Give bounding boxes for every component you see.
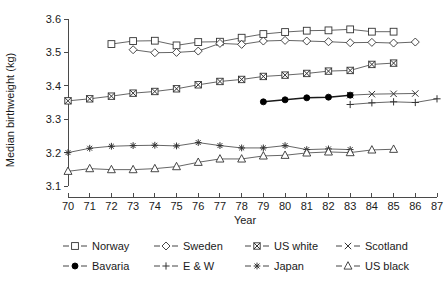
- data-point-open-square: [72, 243, 79, 250]
- y-tick-label: 3.2: [46, 147, 61, 159]
- y-tick-label: 3.6: [46, 13, 61, 25]
- x-tick-label: 84: [366, 200, 378, 212]
- x-tick-label: 80: [279, 200, 291, 212]
- data-point-asterisk: [108, 143, 115, 150]
- data-point-open-square: [151, 37, 158, 44]
- data-point-crossed-square: [195, 82, 201, 88]
- legend-label: E & W: [183, 260, 215, 272]
- data-point-crossed-square: [304, 70, 310, 76]
- x-tick-label: 77: [214, 200, 226, 212]
- y-tick-label: 3.1: [46, 180, 61, 192]
- data-point-crossed-square: [108, 93, 114, 99]
- data-point-open-square: [325, 27, 332, 34]
- data-point-crossed-square: [217, 78, 223, 84]
- x-tick-label: 87: [431, 200, 443, 212]
- data-point-crossed-square: [325, 68, 331, 74]
- data-point-asterisk: [195, 139, 202, 146]
- x-tick-label: 83: [344, 200, 356, 212]
- data-point-filled-circle: [72, 263, 78, 269]
- data-point-open-square: [390, 28, 397, 35]
- data-point-filled-circle: [347, 92, 353, 98]
- x-tick-label: 72: [105, 200, 117, 212]
- x-tick-label: 71: [84, 200, 96, 212]
- data-point-crossed-square: [65, 98, 71, 104]
- data-point-asterisk: [217, 142, 224, 149]
- data-point-crossed-square: [369, 61, 375, 67]
- data-point-crossed-square: [347, 67, 353, 73]
- x-tick-label: 81: [301, 200, 313, 212]
- data-point-open-square: [368, 28, 375, 35]
- data-point-crossed-square: [173, 86, 179, 92]
- data-point-asterisk: [86, 145, 93, 152]
- x-axis-title: Year: [234, 214, 257, 226]
- data-point-asterisk: [254, 263, 261, 270]
- legend-label: US white: [274, 240, 318, 252]
- data-point-filled-circle: [282, 97, 288, 103]
- data-point-filled-circle: [325, 94, 331, 100]
- data-point-asterisk: [65, 149, 72, 156]
- data-point-asterisk: [130, 142, 137, 149]
- y-tick-label: 3.4: [46, 80, 61, 92]
- x-tick-label: 76: [192, 200, 204, 212]
- x-tick-label: 73: [127, 200, 139, 212]
- x-tick-label: 70: [62, 200, 74, 212]
- data-point-filled-circle: [304, 95, 310, 101]
- data-point-crossed-square: [87, 96, 93, 102]
- data-point-crossed-square: [238, 76, 244, 82]
- x-tick-label: 75: [170, 200, 182, 212]
- data-point-crossed-square: [130, 90, 136, 96]
- y-axis-title: Median birthweight (kg): [4, 53, 16, 167]
- data-point-asterisk: [238, 145, 245, 152]
- data-point-crossed-square: [282, 72, 288, 78]
- legend-label: US black: [365, 260, 410, 272]
- birthweight-line-chart: 3.13.23.33.43.53.6 707172737475767778798…: [0, 0, 445, 286]
- data-point-asterisk: [260, 145, 267, 152]
- legend-label: Scotland: [365, 240, 408, 252]
- legend-label: Bavaria: [92, 260, 130, 272]
- data-point-asterisk: [151, 142, 158, 149]
- data-point-asterisk: [173, 143, 180, 150]
- data-point-crossed-square: [152, 88, 158, 94]
- data-point-crossed-square: [390, 60, 396, 66]
- x-tick-label: 78: [236, 200, 248, 212]
- y-tick-label: 3.5: [46, 46, 61, 58]
- legend-label: Japan: [274, 260, 304, 272]
- legend-label: Norway: [92, 240, 130, 252]
- data-point-crossed-square: [254, 243, 260, 249]
- data-point-crossed-square: [260, 73, 266, 79]
- data-point-open-square: [195, 39, 202, 46]
- data-point-open-square: [130, 38, 137, 45]
- data-point-open-square: [347, 26, 354, 33]
- x-tick-label: 86: [409, 200, 421, 212]
- x-tick-label: 79: [257, 200, 269, 212]
- data-point-open-square: [303, 27, 310, 34]
- legend-label: Sweden: [183, 240, 223, 252]
- data-point-filled-circle: [260, 99, 266, 105]
- data-point-open-square: [282, 29, 289, 36]
- chart-container: 3.13.23.33.43.53.6 707172737475767778798…: [0, 0, 445, 286]
- y-tick-label: 3.3: [46, 113, 61, 125]
- x-tick-label: 74: [149, 200, 161, 212]
- data-point-asterisk: [282, 142, 289, 149]
- x-tick-label: 82: [322, 200, 334, 212]
- data-point-open-square: [108, 41, 115, 48]
- x-tick-label: 85: [387, 200, 399, 212]
